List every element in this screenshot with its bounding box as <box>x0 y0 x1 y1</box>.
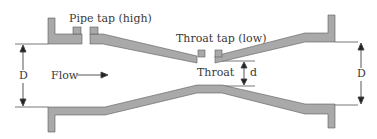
venturi-bottom-wall-body <box>48 85 335 132</box>
flow-label: Flow <box>51 70 78 81</box>
outlet-diameter-label: D <box>357 68 366 79</box>
throat-label: Throat <box>197 67 234 78</box>
inlet-diameter-label: D <box>19 70 28 81</box>
pipe-tap-label: Pipe tap (high) <box>69 13 152 24</box>
venturi-diagram: Pipe tap (high) Throat tap (low) Flow Th… <box>0 0 377 139</box>
throat-tap-label: Throat tap (low) <box>176 33 266 44</box>
venturi-bottom-wall <box>48 85 335 132</box>
arrow-down-icon <box>241 79 247 85</box>
arrow-down-icon <box>20 99 26 106</box>
throat-tap-stub-right <box>215 50 222 57</box>
arrow-up-icon <box>20 45 26 52</box>
arrow-down-icon <box>358 97 364 104</box>
throat-diameter-label: d <box>250 67 257 78</box>
arrow-up-icon <box>241 62 247 68</box>
pipe-tap-stub-left <box>73 27 81 34</box>
arrow-up-icon <box>358 43 364 50</box>
flow-arrow-icon <box>101 72 108 78</box>
throat-tap-stub-left <box>198 50 205 57</box>
pipe-tap-stub-right <box>90 27 98 34</box>
